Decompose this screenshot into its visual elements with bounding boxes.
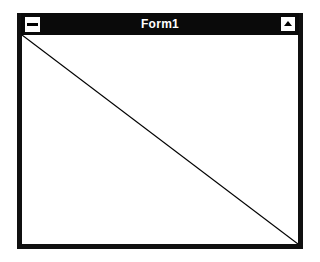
- window-title: Form1: [21, 17, 299, 31]
- title-bar[interactable]: Form1: [21, 13, 299, 35]
- maximize-button[interactable]: [281, 17, 295, 31]
- maximize-arrow-icon: [284, 21, 292, 26]
- diagonal-line-drawing: [22, 35, 298, 244]
- client-area[interactable]: [22, 35, 298, 244]
- form1-window: Form1: [17, 13, 303, 249]
